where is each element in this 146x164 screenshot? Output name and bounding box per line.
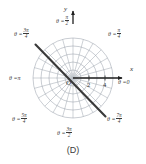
radial-tick-4: 4 bbox=[103, 82, 106, 89]
theta-pi-prefix: θ = bbox=[9, 75, 18, 81]
theta-3pi4-fraction: 3π4 bbox=[23, 28, 29, 40]
theta-3pi2-denominator: 2 bbox=[66, 132, 72, 138]
theta-pi-label: θ =π bbox=[9, 75, 21, 81]
origin-label: O bbox=[66, 80, 71, 87]
theta-5pi4-label: θ =5π4 bbox=[12, 113, 27, 125]
theta-0-value: 0 bbox=[127, 79, 130, 85]
theta-5pi4-prefix: θ = bbox=[12, 116, 21, 122]
radial-tick-2: 2 bbox=[87, 82, 90, 89]
theta-7pi4-denominator: 4 bbox=[116, 118, 122, 124]
theta-0-label: θ =0 bbox=[118, 79, 130, 85]
theta-pi4-fraction: π4 bbox=[117, 28, 121, 40]
theta-pi-value: π bbox=[18, 75, 21, 81]
theta-3pi2-fraction: 3π2 bbox=[66, 127, 72, 139]
figure-caption: (D) bbox=[0, 145, 146, 155]
theta-3pi4-label: θ =3π4 bbox=[14, 28, 29, 40]
theta-pi4-prefix: θ = bbox=[108, 31, 117, 37]
theta-5pi4-fraction: 5π4 bbox=[21, 113, 27, 125]
polar-figure: y x O 2 4 θ =0 θ =π4 θ =π2 θ =3π4 θ =π θ… bbox=[0, 0, 146, 164]
theta-7pi4-prefix: θ = bbox=[107, 116, 116, 122]
theta-3pi2-prefix: θ = bbox=[57, 130, 66, 136]
theta-pi4-denominator: 4 bbox=[117, 33, 121, 39]
theta-3pi2-label: θ =3π2 bbox=[57, 127, 72, 139]
theta-7pi4-fraction: 7π4 bbox=[116, 113, 122, 125]
theta-5pi4-denominator: 4 bbox=[21, 118, 27, 124]
theta-pi2-denominator: 2 bbox=[65, 20, 69, 26]
y-axis-label: y bbox=[64, 6, 67, 13]
theta-pi2-prefix: θ = bbox=[56, 18, 65, 24]
x-axis-label: x bbox=[130, 66, 133, 73]
theta-3pi4-prefix: θ = bbox=[14, 31, 23, 37]
theta-7pi4-label: θ =7π4 bbox=[107, 113, 122, 125]
theta-pi2-fraction: π2 bbox=[65, 15, 69, 27]
theta-3pi4-denominator: 4 bbox=[23, 33, 29, 39]
theta-0-prefix: θ = bbox=[118, 79, 127, 85]
theta-pi4-label: θ =π4 bbox=[108, 28, 121, 40]
theta-pi2-label: θ =π2 bbox=[56, 15, 69, 27]
